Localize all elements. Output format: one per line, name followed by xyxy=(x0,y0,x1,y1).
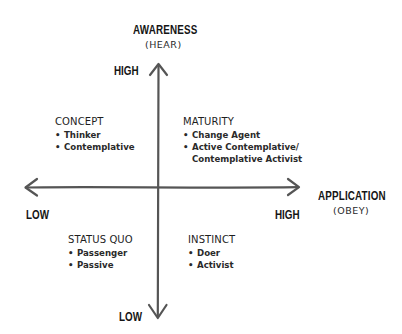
quadrant-concept: CONCEPT •Thinker •Contemplative xyxy=(55,116,135,153)
list-item-continuation: Contemplative Activist xyxy=(183,153,302,165)
quadrant-maturity: MATURITY •Change Agent •Active Contempla… xyxy=(183,116,302,165)
vertical-axis-subtitle: (HEAR) xyxy=(145,39,182,50)
quadrant-status-quo: STATUS QUO •Passenger •Passive xyxy=(68,234,133,271)
list-item: •Passenger xyxy=(68,247,133,259)
quadrant-list: •Change Agent •Active Contemplative/ Con… xyxy=(183,129,302,165)
list-item: •Contemplative xyxy=(55,141,135,153)
list-item: •Doer xyxy=(188,247,235,259)
vertical-low-label: LOW xyxy=(119,310,142,324)
horizontal-axis-title: APPLICATION xyxy=(318,189,386,203)
quadrant-list: •Doer •Activist xyxy=(188,247,235,271)
vertical-axis-title: AWARENESS xyxy=(133,23,197,37)
list-item: •Activist xyxy=(188,259,235,271)
quadrant-title: INSTINCT xyxy=(188,234,235,245)
axes xyxy=(0,0,402,334)
list-item: •Active Contemplative/ xyxy=(183,141,302,153)
vertical-high-label: HIGH xyxy=(114,64,139,78)
quadrant-list: •Thinker •Contemplative xyxy=(55,129,135,153)
list-item: •Passive xyxy=(68,259,133,271)
quadrant-instinct: INSTINCT •Doer •Activist xyxy=(188,234,235,271)
quadrant-title: CONCEPT xyxy=(55,116,135,127)
vertical-axis-line xyxy=(158,66,159,316)
list-item: •Change Agent xyxy=(183,129,302,141)
horizontal-axis-subtitle: (OBEY) xyxy=(333,205,369,216)
quadrant-title: STATUS QUO xyxy=(68,234,133,245)
list-item: •Thinker xyxy=(55,129,135,141)
horizontal-high-label: HIGH xyxy=(275,208,300,222)
horizontal-low-label: LOW xyxy=(26,208,49,222)
quadrant-list: •Passenger •Passive xyxy=(68,247,133,271)
quadrant-title: MATURITY xyxy=(183,116,302,127)
